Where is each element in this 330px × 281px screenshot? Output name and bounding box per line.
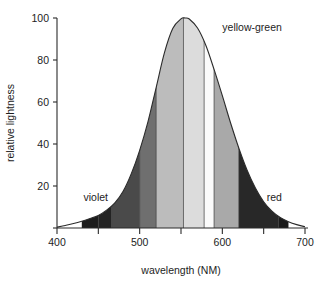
- y-tick-label: 40: [37, 138, 49, 150]
- annotation-red: red: [267, 191, 282, 203]
- spectral-bands: [82, 12, 289, 230]
- x-tick-label: 700: [296, 236, 314, 248]
- spectral-luminosity-chart: 20406080100 400500600700 wavelength (NM)…: [0, 0, 330, 281]
- x-tick-label: 400: [48, 236, 66, 248]
- annotation-violet: violet: [83, 191, 108, 203]
- spectral-band-blue: [112, 12, 140, 230]
- x-axis-tick-labels: 400500600700: [48, 236, 314, 248]
- y-tick-label: 80: [37, 54, 49, 66]
- y-axis-tick-labels: 20406080100: [31, 12, 49, 192]
- chart-svg: 20406080100 400500600700 wavelength (NM)…: [0, 0, 330, 281]
- y-axis-ticks: [53, 18, 57, 228]
- spectral-band-green: [156, 12, 183, 230]
- x-axis-title: wavelength (NM): [140, 264, 220, 276]
- x-axis-ticks: [57, 228, 305, 234]
- y-tick-label: 60: [37, 96, 49, 108]
- spectral-band-yellow-green: [183, 12, 204, 230]
- annotation-yellow-green: yellow-green: [222, 21, 282, 33]
- y-tick-label: 20: [37, 180, 49, 192]
- x-tick-label: 600: [214, 236, 232, 248]
- x-tick-label: 500: [131, 236, 149, 248]
- spectral-band-orange: [214, 12, 239, 230]
- y-axis-title: relative lightness: [4, 84, 16, 162]
- y-tick-label: 100: [31, 12, 49, 24]
